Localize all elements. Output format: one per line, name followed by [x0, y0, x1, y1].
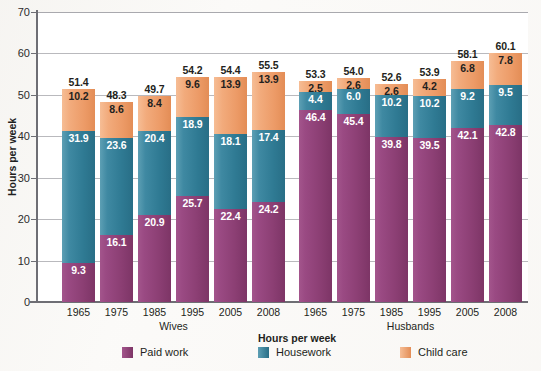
seg-wives-2005-housework[interactable]: 18.1	[214, 134, 247, 209]
bar-total-wives-1965: 51.4	[58, 76, 99, 88]
seg-wives-2005-childcare[interactable]: 13.9	[214, 77, 247, 135]
bar-wives-2005[interactable]: 13.918.122.454.4	[214, 77, 247, 302]
bar-husbands-1975[interactable]: 2.66.045.454.0	[337, 78, 370, 302]
seg-wives-1975-housework-value: 23.6	[100, 139, 133, 151]
seg-husbands-2005-paid-value: 42.1	[451, 129, 484, 141]
seg-wives-2005-paid[interactable]: 22.4	[214, 209, 247, 302]
seg-wives-2008-childcare-value: 13.9	[252, 73, 285, 85]
seg-wives-2008-housework[interactable]: 17.4	[252, 130, 285, 202]
seg-husbands-2008-childcare-value: 7.8	[489, 54, 522, 66]
x-tick-label-wives-1995: 1995	[172, 306, 213, 318]
legend-swatch-child-care	[400, 347, 411, 358]
y-axis-line	[36, 10, 38, 302]
seg-wives-1975-paid[interactable]: 16.1	[100, 235, 133, 302]
seg-wives-1995-housework[interactable]: 18.9	[176, 117, 209, 195]
seg-husbands-2005-housework[interactable]: 9.2	[451, 89, 484, 127]
bar-husbands-2008[interactable]: 7.89.542.860.1	[489, 53, 522, 302]
seg-husbands-1985-childcare[interactable]: 2.6	[375, 84, 408, 95]
x-tick-label-husbands-1995: 1995	[409, 306, 450, 318]
y-axis-label: Hours per week	[6, 118, 18, 196]
seg-wives-1975-childcare[interactable]: 8.6	[100, 102, 133, 138]
bar-wives-1995[interactable]: 9.618.925.754.2	[176, 77, 209, 302]
y-tick-label-20: 20	[18, 213, 30, 225]
seg-wives-2008-childcare[interactable]: 13.9	[252, 72, 285, 130]
bar-total-wives-1995: 54.2	[172, 64, 213, 76]
legend-item-paid-work[interactable]: Paid work	[122, 346, 188, 358]
bar-total-wives-2008: 55.5	[248, 59, 289, 71]
seg-wives-1965-housework[interactable]: 31.9	[62, 131, 95, 263]
legend-item-child-care[interactable]: Child care	[400, 346, 468, 358]
bar-total-wives-1985: 49.7	[134, 83, 175, 95]
x-tick-label-wives-1985: 1985	[134, 306, 175, 318]
bar-wives-1965[interactable]: 10.231.99.351.4	[62, 89, 95, 302]
x-tick-label-husbands-1985: 1985	[371, 306, 412, 318]
seg-husbands-1975-paid[interactable]: 45.4	[337, 114, 370, 302]
bar-total-husbands-1975: 54.0	[333, 65, 374, 77]
seg-husbands-1995-childcare[interactable]: 4.2	[413, 79, 446, 96]
seg-wives-2005-childcare-value: 13.9	[214, 78, 247, 90]
seg-wives-1975-housework[interactable]: 23.6	[100, 138, 133, 236]
legend-label-housework: Housework	[276, 346, 331, 358]
seg-husbands-2005-childcare[interactable]: 6.8	[451, 61, 484, 89]
x-tick-label-wives-1975: 1975	[96, 306, 137, 318]
seg-wives-1985-childcare-value: 8.4	[138, 97, 171, 109]
seg-husbands-1975-housework-value: 6.0	[337, 90, 370, 102]
bar-total-husbands-2008: 60.1	[485, 40, 526, 52]
bar-wives-1975[interactable]: 8.623.616.148.3	[100, 102, 133, 302]
seg-wives-2008-paid-value: 24.2	[252, 203, 285, 215]
seg-husbands-1965-childcare[interactable]: 2.5	[299, 81, 332, 91]
x-tick-label-wives-1965: 1965	[58, 306, 99, 318]
legend-swatch-housework	[258, 347, 269, 358]
legend-label-child-care: Child care	[418, 346, 468, 358]
seg-husbands-1985-paid[interactable]: 39.8	[375, 137, 408, 302]
bar-husbands-1985[interactable]: 2.610.239.852.6	[375, 84, 408, 302]
seg-husbands-1975-childcare[interactable]: 2.6	[337, 78, 370, 89]
seg-wives-1995-paid-value: 25.7	[176, 197, 209, 209]
seg-wives-1965-childcare-value: 10.2	[62, 90, 95, 102]
seg-husbands-1965-paid[interactable]: 46.4	[299, 110, 332, 302]
seg-wives-1965-paid[interactable]: 9.3	[62, 263, 95, 302]
bar-husbands-1965[interactable]: 2.54.446.453.3	[299, 81, 332, 302]
x-tick-label-wives-2008: 2008	[248, 306, 289, 318]
bar-wives-1985[interactable]: 8.420.420.949.7	[138, 96, 171, 302]
seg-husbands-1985-paid-value: 39.8	[375, 138, 408, 150]
y-tick-label-60: 60	[18, 47, 30, 59]
bar-wives-2008[interactable]: 13.917.424.255.5	[252, 72, 285, 302]
seg-husbands-1975-housework[interactable]: 6.0	[337, 89, 370, 114]
y-tick-label-50: 50	[18, 89, 30, 101]
seg-husbands-1995-housework[interactable]: 10.2	[413, 96, 446, 138]
group-label-wives: Wives	[62, 320, 285, 332]
seg-husbands-1965-housework[interactable]: 4.4	[299, 92, 332, 110]
seg-husbands-2005-housework-value: 9.2	[451, 90, 484, 102]
seg-wives-2008-paid[interactable]: 24.2	[252, 202, 285, 302]
bar-total-wives-1975: 48.3	[96, 89, 137, 101]
seg-husbands-1975-paid-value: 45.4	[337, 115, 370, 127]
seg-husbands-1965-paid-value: 46.4	[299, 111, 332, 123]
seg-wives-1995-childcare[interactable]: 9.6	[176, 77, 209, 117]
bar-total-husbands-1965: 53.3	[295, 68, 336, 80]
seg-husbands-1985-housework[interactable]: 10.2	[375, 95, 408, 137]
x-tick-label-husbands-1965: 1965	[295, 306, 336, 318]
x-tick-label-husbands-1975: 1975	[333, 306, 374, 318]
seg-wives-1985-housework-value: 20.4	[138, 132, 171, 144]
seg-wives-1985-childcare[interactable]: 8.4	[138, 96, 171, 131]
bar-husbands-2005[interactable]: 6.89.242.158.1	[451, 61, 484, 302]
seg-wives-1965-childcare[interactable]: 10.2	[62, 89, 95, 131]
legend-item-housework[interactable]: Housework	[258, 346, 331, 358]
seg-husbands-1995-paid[interactable]: 39.5	[413, 138, 446, 302]
seg-husbands-2005-childcare-value: 6.8	[451, 62, 484, 74]
seg-husbands-2008-housework[interactable]: 9.5	[489, 85, 522, 124]
seg-husbands-2008-paid[interactable]: 42.8	[489, 125, 522, 302]
seg-wives-1995-paid[interactable]: 25.7	[176, 196, 209, 302]
bar-husbands-1995[interactable]: 4.210.239.553.9	[413, 79, 446, 302]
y-tick-label-30: 30	[18, 172, 30, 184]
seg-wives-1985-housework[interactable]: 20.4	[138, 131, 171, 216]
seg-wives-1985-paid[interactable]: 20.9	[138, 215, 171, 302]
y-tick-label-70: 70	[18, 6, 30, 18]
x-tick-label-husbands-2005: 2005	[447, 306, 488, 318]
seg-husbands-2008-childcare[interactable]: 7.8	[489, 53, 522, 85]
seg-wives-2005-paid-value: 22.4	[214, 210, 247, 222]
seg-wives-1975-paid-value: 16.1	[100, 236, 133, 248]
seg-husbands-2005-paid[interactable]: 42.1	[451, 128, 484, 302]
plot-area: 010203040506070 Hours per week 10.231.99…	[36, 12, 528, 302]
